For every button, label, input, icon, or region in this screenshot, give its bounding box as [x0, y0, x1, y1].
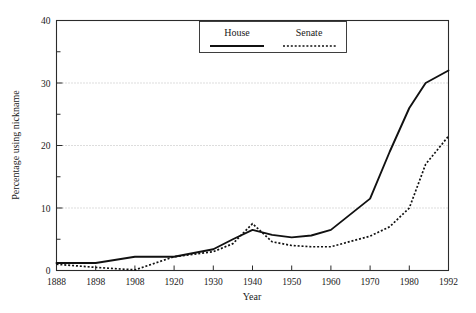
- y-tick-label-40: 40: [41, 16, 51, 26]
- x-tick-label-1908: 1908: [125, 277, 144, 287]
- y-axis-title: Percentage using nickname: [10, 90, 21, 200]
- chart-container: 010203040 188818981908192019301940195019…: [0, 0, 476, 313]
- x-tick-label-1980: 1980: [400, 277, 419, 287]
- series-line-house: [57, 71, 449, 264]
- y-axis-tick-labels-group: 010203040: [41, 16, 51, 276]
- y-tick-label-20: 20: [41, 141, 51, 151]
- x-tick-label-1992: 1992: [439, 277, 458, 287]
- x-tick-label-1950: 1950: [282, 277, 301, 287]
- y-tick-label-0: 0: [46, 266, 51, 276]
- legend-label-house: House: [224, 27, 250, 38]
- y-axis-ticks-group: [57, 21, 63, 271]
- x-axis-title: Year: [243, 291, 262, 302]
- x-tick-label-1960: 1960: [321, 277, 340, 287]
- x-tick-label-1940: 1940: [243, 277, 262, 287]
- x-tick-label-1970: 1970: [361, 277, 380, 287]
- legend: House Senate: [200, 22, 347, 53]
- nickname-usage-line-chart: 010203040 188818981908192019301940195019…: [0, 0, 476, 313]
- legend-label-senate: Senate: [296, 27, 323, 38]
- gridlines-group: [57, 83, 449, 208]
- series-line-senate: [57, 136, 449, 270]
- x-tick-label-1920: 1920: [165, 277, 184, 287]
- x-tick-label-1930: 1930: [204, 277, 223, 287]
- y-tick-label-30: 30: [41, 79, 51, 89]
- x-axis-tick-labels-group: 1888189819081920193019401950196019701980…: [47, 277, 458, 287]
- legend-box: [200, 22, 347, 53]
- y-tick-label-10: 10: [41, 204, 51, 214]
- x-tick-label-1888: 1888: [47, 277, 66, 287]
- x-tick-label-1898: 1898: [86, 277, 105, 287]
